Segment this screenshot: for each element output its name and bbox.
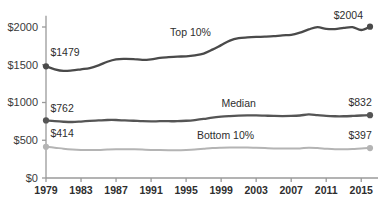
x-tick-label-4: 1995	[174, 184, 198, 196]
x-tick-label-2: 1987	[104, 184, 128, 196]
endpoint-dot-1	[367, 24, 373, 30]
annotation-414: $414	[50, 127, 74, 139]
endpoint-dot-5	[367, 145, 373, 151]
x-tick-label-8: 2011	[315, 184, 338, 196]
y-axis-ticks: $0$500$1000$1500$2000	[7, 21, 46, 184]
endpoint-dot-4	[43, 144, 49, 150]
chart-container: $0$500$1000$1500$2000 197919831987199119…	[0, 0, 385, 203]
annotation-median: Median	[221, 97, 256, 109]
annotation-bottom-10: Bottom 10%	[197, 129, 254, 141]
axis-layer	[46, 16, 378, 178]
x-tick-label-5: 1999	[209, 184, 233, 196]
annotation-397: $397	[348, 129, 372, 141]
y-tick-label-2: $1000	[7, 96, 38, 108]
x-axis-ticks: 1979198319871991199519992003200720112015	[34, 178, 373, 196]
annotation-top-10: Top 10%	[170, 26, 211, 38]
x-tick-label-3: 1991	[139, 184, 163, 196]
y-tick-label-4: $2000	[7, 21, 38, 33]
x-tick-label-9: 2015	[350, 184, 374, 196]
annotation-832: $832	[348, 96, 372, 108]
annotation-1479: $1479	[50, 46, 79, 58]
y-tick-label-1: $500	[14, 134, 38, 146]
y-tick-label-0: $0	[26, 172, 38, 184]
endpoint-dot-0	[43, 63, 49, 69]
y-tick-label-3: $1500	[7, 59, 38, 71]
annotation-2004: $2004	[334, 9, 363, 21]
x-tick-label-7: 2007	[280, 184, 304, 196]
line-chart: $0$500$1000$1500$2000 197919831987199119…	[0, 0, 385, 203]
annotation-762: $762	[50, 102, 74, 114]
endpoint-dot-3	[367, 112, 373, 118]
x-tick-label-0: 1979	[34, 184, 58, 196]
endpoint-dot-2	[43, 117, 49, 123]
series-line-median	[46, 114, 370, 122]
x-tick-label-1: 1983	[69, 184, 93, 196]
x-tick-label-6: 2003	[244, 184, 268, 196]
series-line-bottom-10	[46, 147, 370, 151]
